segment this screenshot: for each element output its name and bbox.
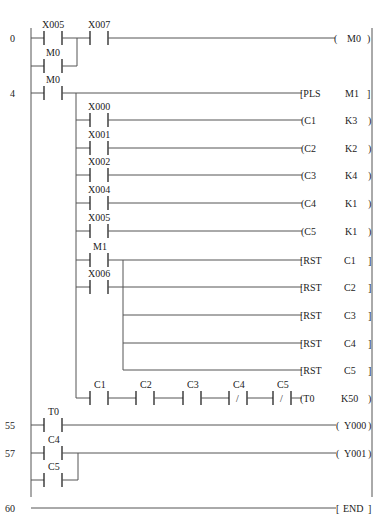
contact-no-icon [44,59,62,73]
step-number: 4 [10,88,15,99]
instr-open: [RST [300,365,322,376]
end-instruction: END [343,503,364,514]
coil-open: (C3 [301,170,316,182]
coil-close: ) [368,115,371,127]
coil-operand: K3 [345,115,357,126]
contact-no-icon [183,391,201,405]
rung-counter-c3: X002 (C3 K4 ) [76,156,371,182]
contact-label: M0 [46,47,60,58]
coil-operand: K1 [345,226,357,237]
contact-label: X007 [88,19,110,30]
rung-counter-c2: X001 (C2 K2 ) [76,129,371,155]
instr-operand: C4 [344,338,356,349]
coil-open: (T0 [300,393,314,405]
contact-label: C2 [140,379,152,390]
step-number: 57 [5,448,15,459]
instr-open: [RST [300,255,322,266]
contact-label: C5 [48,461,60,472]
instr-operand: C1 [344,255,356,266]
contact-no-icon [90,141,108,155]
contact-label: M1 [93,241,107,252]
contact-label: X005 [42,19,64,30]
end-close: ] [368,503,371,514]
instr-open: [RST [300,282,322,293]
instr-close: ] [368,310,371,321]
coil-close: ) [368,170,371,182]
contact-no-icon [44,31,62,45]
coil-open: (C4 [301,198,316,210]
rung-timer: C1 C2 C3 / C4 / C5 (T0 K50 ) [76,379,371,405]
contact-no-icon [90,391,108,405]
instr-open: [PLS [300,88,321,99]
rung-counter-c5: X005 (C5 K1 ) [76,212,371,238]
instr-open: [RST [300,338,322,349]
contact-no-icon [90,168,108,182]
coil-open: (C1 [301,115,316,127]
rung-0: 0 X005 M0 X007 ( M0 ) [10,19,370,73]
contact-label: X004 [88,184,110,195]
instr-operand: C5 [344,365,356,376]
ladder-diagram: 0 X005 M0 X007 ( M0 ) 4 M0 [PLS M1 ] X00… [0,0,392,530]
coil-open: (C2 [301,143,316,155]
contact-no-icon [90,253,108,267]
coil-close: ) [367,33,370,45]
coil-close: ) [368,420,371,432]
contact-label: C4 [48,434,60,445]
contact-label: X001 [88,129,110,140]
rung-60-end: 60 [ END ] [5,503,371,514]
coil-open: ( [336,420,340,432]
step-number: 55 [5,420,15,431]
instr-operand: C2 [344,282,356,293]
contact-label: X005 [88,212,110,223]
step-number: 0 [10,33,15,44]
coil-open: (C5 [301,226,316,238]
instr-operand: C3 [344,310,356,321]
rung-4: 4 M0 [PLS M1 ] [10,74,370,100]
instr-close: ] [368,365,371,376]
instr-close: ] [368,338,371,349]
contact-label: X000 [88,101,110,112]
coil-operand: M0 [347,33,361,44]
instr-close: ] [368,282,371,293]
coil-close: ) [368,448,371,460]
contact-label: C3 [187,379,199,390]
coil-operand: Y000 [344,420,366,431]
rung-reset: M1 X006 [RST C1 ] [RST C2 ] [RST C3 ] [R… [76,241,371,376]
instr-close: ] [368,255,371,266]
nc-mark: / [280,393,283,404]
contact-no-icon [90,31,108,45]
coil-operand: K4 [345,170,357,181]
contact-no-icon [44,473,62,487]
coil-open: ( [334,33,338,45]
contact-label: X002 [88,156,110,167]
contact-no-icon [90,113,108,127]
contact-label: M0 [46,74,60,85]
coil-close: ) [368,198,371,210]
rung-55: 55 T0 ( Y000 ) [5,406,371,432]
nc-mark: / [236,393,239,404]
contact-no-icon [90,196,108,210]
contact-no-icon [136,391,154,405]
contact-no-icon [90,224,108,238]
instr-close: ] [367,88,370,99]
contact-label: X006 [88,268,110,279]
contact-no-icon [44,86,62,100]
contact-label: C1 [94,379,106,390]
instr-operand: M1 [345,88,359,99]
contact-no-icon [90,280,108,294]
contact-label: T0 [48,406,59,417]
contact-label: C4 [233,379,245,390]
step-number: 60 [5,503,15,514]
rung-counter-c4: X004 (C4 K1 ) [76,184,371,210]
rung-counter-c1: X000 (C1 K3 ) [76,101,371,127]
contact-label: C5 [277,379,289,390]
coil-close: ) [368,226,371,238]
coil-close: ) [368,143,371,155]
end-open: [ [336,503,339,514]
coil-operand: K50 [341,393,358,404]
contact-no-icon [44,418,62,432]
coil-operand: K2 [345,143,357,154]
coil-operand: K1 [345,198,357,209]
coil-open: ( [336,448,340,460]
rung-57: 57 C4 C5 ( Y001 ) [5,434,371,487]
